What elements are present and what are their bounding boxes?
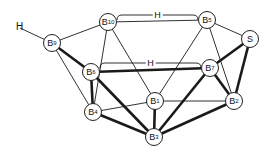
atom-symbol: S xyxy=(247,34,253,44)
atom-node-b2: B2 xyxy=(225,92,243,110)
atom-index: 5 xyxy=(208,17,211,23)
terminal-hydrogen-label: H xyxy=(16,22,23,32)
atom-index: 2 xyxy=(235,98,238,104)
atom-index: 9 xyxy=(53,40,56,46)
bond-b5-b1 xyxy=(155,20,207,101)
bridging-hydrogen-label: H xyxy=(152,10,163,20)
bond-b6-b3 xyxy=(91,72,154,137)
atom-node-b5: B5 xyxy=(198,11,216,29)
atom-node-b7: B7 xyxy=(201,59,219,77)
atom-index: 1 xyxy=(156,98,159,104)
atom-node-b3: B3 xyxy=(145,128,163,146)
atom-node-b1: B1 xyxy=(146,92,164,110)
bond-b10-b5 xyxy=(108,20,207,22)
borane-cluster-diagram: HHHB9B10B5SB6B7B1B4B2B3 xyxy=(0,0,276,157)
atom-node-s: S xyxy=(241,30,259,48)
bond-b2-b3 xyxy=(154,101,234,137)
atom-index: 7 xyxy=(211,65,214,71)
atom-index: 10 xyxy=(108,19,115,25)
atom-index: 3 xyxy=(155,134,158,140)
atom-index: 4 xyxy=(94,109,97,115)
atom-index: 6 xyxy=(92,69,95,75)
bond-b6-b7 xyxy=(91,68,210,72)
atom-node-b4: B4 xyxy=(84,103,102,121)
bond-lines xyxy=(0,0,276,157)
atom-node-b10: B10 xyxy=(99,13,117,31)
atom-node-b9: B9 xyxy=(43,34,61,52)
atom-node-b6: B6 xyxy=(82,63,100,81)
bridging-hydrogen-label: H xyxy=(145,58,156,68)
